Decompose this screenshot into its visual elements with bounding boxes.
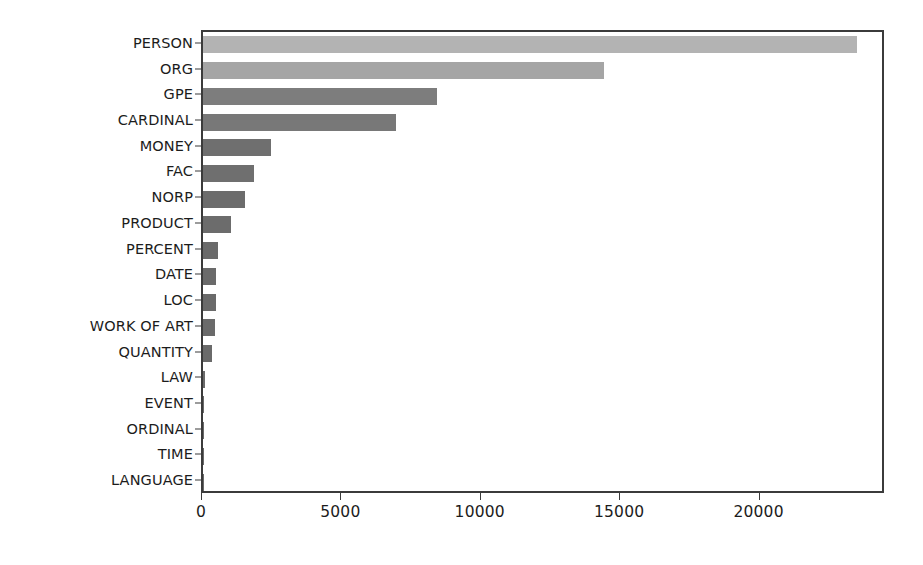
bar-work-of-art xyxy=(203,319,215,336)
bar-row xyxy=(203,289,216,315)
y-axis-tick-label: DATE xyxy=(155,267,193,282)
y-axis-tick-label: PERSON xyxy=(133,36,193,51)
bar-row xyxy=(203,109,396,135)
bar-row xyxy=(203,392,204,418)
y-axis-tick-label: ORG xyxy=(160,61,193,76)
bar-row xyxy=(203,58,604,84)
bar-row xyxy=(203,212,231,238)
bar-quantity xyxy=(203,345,212,362)
bar-row xyxy=(203,135,271,161)
bar-event xyxy=(203,396,204,413)
x-axis-tick-mark xyxy=(201,493,202,500)
x-axis-tick-label: 5000 xyxy=(320,503,360,521)
bar-ordinal xyxy=(203,422,204,439)
bar-person xyxy=(203,36,857,53)
bar-law xyxy=(203,371,205,388)
y-axis-tick-label: LAW xyxy=(161,370,193,385)
y-axis-tick-label: ORDINAL xyxy=(127,421,193,436)
x-axis-tick-label: 10000 xyxy=(455,503,505,521)
x-axis-tick-label: 20000 xyxy=(733,503,783,521)
bar-row xyxy=(203,32,857,58)
bar-row xyxy=(203,186,245,212)
y-axis-tick-label: LANGUAGE xyxy=(111,473,193,488)
bar-fac xyxy=(203,165,254,182)
y-axis-tick-label: NORP xyxy=(152,190,193,205)
y-axis-tick-label: PRODUCT xyxy=(121,216,193,231)
y-axis-label-group: PERSONORGGPECARDINALMONEYFACNORPPRODUCTP… xyxy=(0,30,193,493)
y-axis-tick-label: QUANTITY xyxy=(119,344,193,359)
bar-time xyxy=(203,448,204,465)
bar-cardinal xyxy=(203,114,396,131)
bar-org xyxy=(203,62,604,79)
bar-loc xyxy=(203,294,216,311)
bar-date xyxy=(203,268,216,285)
y-axis-tick-label: CARDINAL xyxy=(118,113,193,128)
bar-money xyxy=(203,139,271,156)
x-axis-tick-mark xyxy=(340,493,341,500)
bar-row xyxy=(203,341,212,367)
x-axis-tick-label: 0 xyxy=(196,503,206,521)
bar-row xyxy=(203,238,218,264)
y-axis-tick-label: WORK OF ART xyxy=(90,319,193,334)
plot-area xyxy=(201,30,884,493)
bar-percent xyxy=(203,242,218,259)
bar-row xyxy=(203,161,254,187)
bar-row xyxy=(203,83,437,109)
x-axis-tick-mark xyxy=(759,493,760,500)
y-axis-tick-label: TIME xyxy=(158,447,193,462)
bar-product xyxy=(203,216,231,233)
bar-row xyxy=(203,315,215,341)
y-axis-tick-label: FAC xyxy=(166,164,193,179)
bars-layer xyxy=(203,32,882,491)
x-axis-tick-label: 15000 xyxy=(594,503,644,521)
bar-row xyxy=(203,366,205,392)
bar-gpe xyxy=(203,88,437,105)
bar-row xyxy=(203,444,204,470)
x-axis-tick-mark xyxy=(480,493,481,500)
y-axis-tick-label: LOC xyxy=(164,293,193,308)
y-axis-tick-label: EVENT xyxy=(145,396,193,411)
y-axis-tick-label: PERCENT xyxy=(126,241,193,256)
y-axis-tick-label: GPE xyxy=(164,87,193,102)
bar-row xyxy=(203,418,204,444)
bar-norp xyxy=(203,191,245,208)
x-axis-tick-mark xyxy=(619,493,620,500)
bar-row xyxy=(203,264,216,290)
bar-chart-figure: PERSONORGGPECARDINALMONEYFACNORPPRODUCTP… xyxy=(0,0,923,565)
y-axis-tick-label: MONEY xyxy=(140,139,193,154)
